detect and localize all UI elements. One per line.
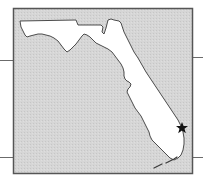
florida-locator-map [0,0,208,191]
map-figure: Florida [0,0,208,191]
